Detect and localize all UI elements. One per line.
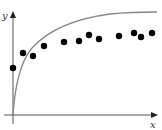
data-point	[86, 32, 92, 38]
x-axis-label: x	[150, 119, 156, 130]
data-point	[76, 38, 82, 44]
data-point	[41, 43, 47, 49]
data-point	[116, 33, 122, 39]
data-point	[20, 50, 26, 56]
data-point	[30, 53, 36, 59]
y-axis-arrow-icon	[10, 11, 16, 18]
data-points	[10, 30, 155, 71]
chart: y x	[0, 0, 162, 130]
data-point	[61, 39, 67, 45]
data-point	[138, 34, 144, 40]
x-axis-arrow-icon	[151, 112, 158, 118]
y-axis-label: y	[1, 10, 8, 21]
fitted-curve	[13, 12, 157, 115]
data-point	[96, 36, 102, 42]
data-point	[10, 65, 16, 71]
data-point	[149, 30, 155, 36]
data-point	[131, 30, 137, 36]
